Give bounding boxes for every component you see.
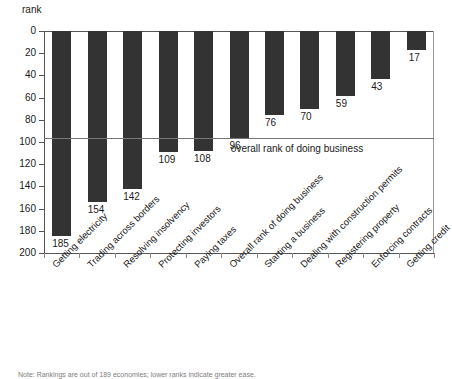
plot-right-axis-line xyxy=(433,31,434,253)
x-axis-tick xyxy=(186,253,187,258)
bar xyxy=(265,31,284,115)
bar-value-label: 76 xyxy=(265,117,276,129)
bar xyxy=(371,31,390,79)
y-tick-label: 60 xyxy=(25,91,36,104)
bar xyxy=(407,31,426,50)
y-tick-mark xyxy=(39,98,44,99)
reference-line-label: overall rank of doing business xyxy=(231,143,363,154)
y-tick-label: 20 xyxy=(25,46,36,59)
footnote: Note: Rankings are out of 189 economies;… xyxy=(18,371,256,379)
bar-value-label: 70 xyxy=(300,111,311,123)
y-tick-mark xyxy=(39,31,44,32)
y-tick-mark xyxy=(39,142,44,143)
bar xyxy=(194,31,213,151)
x-axis-tick xyxy=(399,253,400,258)
bar-value-label: 43 xyxy=(371,81,382,93)
y-tick-label: 100 xyxy=(19,135,36,148)
y-tick-label: 80 xyxy=(25,113,36,126)
x-axis-tick xyxy=(328,253,329,258)
x-axis-tick xyxy=(363,253,364,258)
x-axis-tick xyxy=(434,253,435,258)
x-axis-tick xyxy=(292,253,293,258)
x-axis-tick xyxy=(150,253,151,258)
x-axis-tick xyxy=(115,253,116,258)
y-tick-label: 200 xyxy=(19,246,36,259)
bar-value-label: 108 xyxy=(194,153,211,165)
y-tick-label: 180 xyxy=(19,224,36,237)
bar xyxy=(159,31,178,152)
y-tick-mark xyxy=(39,53,44,54)
x-axis-tick xyxy=(257,253,258,258)
y-tick-mark xyxy=(39,231,44,232)
bar xyxy=(52,31,71,236)
y-tick-mark xyxy=(39,186,44,187)
bar-value-label: 17 xyxy=(409,52,420,64)
y-tick-label: 0 xyxy=(30,24,36,37)
bar xyxy=(88,31,107,202)
x-axis-tick xyxy=(44,253,45,258)
y-tick-mark xyxy=(39,209,44,210)
bar-value-label: 109 xyxy=(159,154,176,166)
bar xyxy=(336,31,355,96)
overall-rank-reference-line xyxy=(44,138,434,139)
y-tick-label: 120 xyxy=(19,157,36,170)
y-tick-label: 140 xyxy=(19,179,36,192)
x-axis-tick xyxy=(221,253,222,258)
y-tick-mark xyxy=(39,75,44,76)
y-axis-title: rank xyxy=(22,4,41,15)
x-axis-tick xyxy=(79,253,80,258)
y-tick-label: 40 xyxy=(25,68,36,81)
bar xyxy=(300,31,319,109)
bar-value-label: 59 xyxy=(336,98,347,110)
bar xyxy=(123,31,142,189)
y-tick-mark xyxy=(39,120,44,121)
bar xyxy=(230,31,249,138)
bar-value-label: 142 xyxy=(123,191,140,203)
y-tick-label: 160 xyxy=(19,202,36,215)
y-tick-mark xyxy=(39,164,44,165)
